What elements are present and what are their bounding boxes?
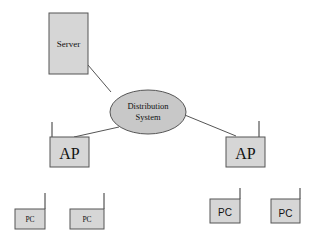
link-server-ds	[88, 65, 111, 92]
ds-label-line2: System	[135, 112, 160, 122]
distribution-system-node: Distribution System	[110, 90, 186, 134]
ds-label-line1: Distribution	[127, 101, 169, 111]
access-point-left: AP	[50, 122, 89, 167]
pc-3-label: PC	[218, 207, 232, 218]
pc-1-label: PC	[25, 215, 34, 224]
access-point-right: AP	[226, 121, 265, 167]
server-label: Server	[57, 39, 81, 49]
ap-right-label: AP	[235, 145, 256, 162]
station-pc-4: PC	[271, 188, 300, 223]
pc-2-label: PC	[82, 215, 91, 224]
ap-left-label: AP	[59, 145, 80, 162]
pc-4-label: PC	[279, 208, 293, 219]
server-node: Server	[49, 13, 88, 74]
station-pc-2: PC	[70, 193, 104, 229]
link-ds-ap-left	[74, 127, 119, 137]
network-diagram: Server Distribution System AP AP PC PC P…	[0, 0, 319, 237]
station-pc-3: PC	[210, 188, 240, 223]
station-pc-1: PC	[15, 193, 45, 229]
